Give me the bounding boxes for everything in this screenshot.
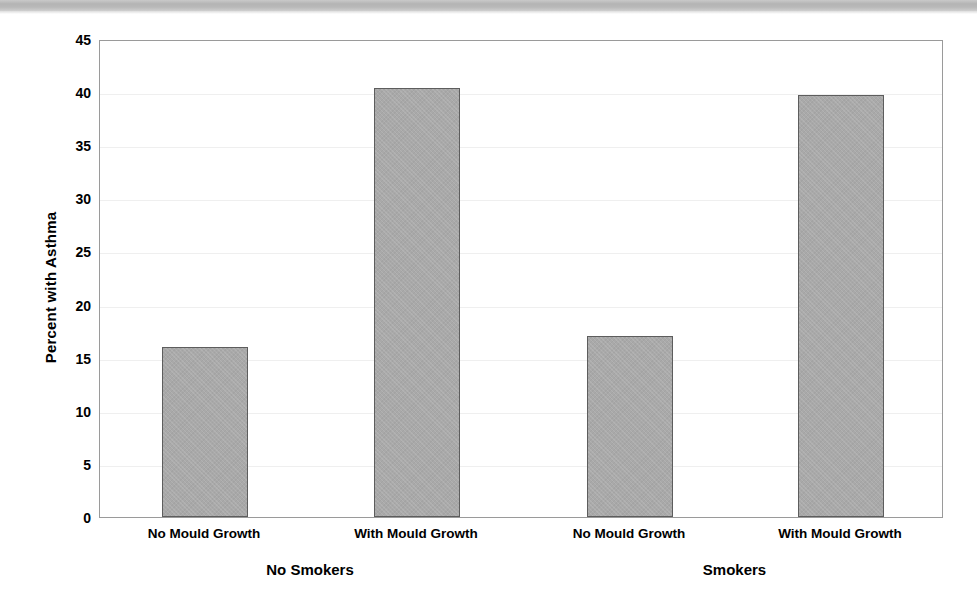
bar bbox=[374, 88, 460, 517]
x-axis-tick-label: With Mould Growth bbox=[760, 527, 920, 541]
x-axis-tick-label: With Mould Growth bbox=[336, 527, 496, 541]
y-axis-tick-label: 30 bbox=[45, 192, 91, 206]
bar bbox=[798, 95, 884, 517]
y-axis-tick-label: 45 bbox=[45, 33, 91, 47]
asthma-bar-chart: Percent with Asthma 454035302520151050 N… bbox=[0, 0, 977, 616]
y-axis-tick-label: 10 bbox=[45, 405, 91, 419]
x-axis-tick-label: No Mould Growth bbox=[124, 527, 284, 541]
bar bbox=[587, 336, 673, 517]
x-axis-group-label: No Smokers bbox=[200, 562, 420, 577]
y-axis-tick-labels: 454035302520151050 bbox=[39, 40, 91, 518]
y-axis-tick-label: 25 bbox=[45, 245, 91, 259]
y-axis-tick-label: 35 bbox=[45, 139, 91, 153]
bar bbox=[162, 347, 248, 517]
y-axis-tick-label: 5 bbox=[45, 458, 91, 472]
y-axis-tick-label: 40 bbox=[45, 86, 91, 100]
y-axis-tick-label: 20 bbox=[45, 299, 91, 313]
y-axis-tick-label: 0 bbox=[45, 511, 91, 525]
plot-area bbox=[99, 40, 943, 518]
x-axis-tick-label: No Mould Growth bbox=[549, 527, 709, 541]
x-axis-group-label: Smokers bbox=[625, 562, 845, 577]
y-axis-tick-label: 15 bbox=[45, 352, 91, 366]
